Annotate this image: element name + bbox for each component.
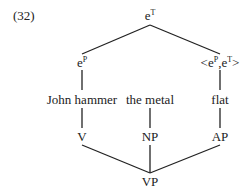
edge-V-VP: [82, 145, 150, 173]
tree-edges: [0, 0, 247, 192]
node-VP-root: VP: [142, 175, 159, 189]
example-number: (32): [13, 9, 35, 23]
node-AP: AP: [212, 130, 229, 144]
node-V: V: [77, 130, 86, 144]
edge-eT-eP: [82, 25, 150, 54]
edge-eT-func: [150, 25, 220, 54]
word-flat: flat: [211, 93, 228, 107]
node-eT-root: eT: [145, 9, 156, 23]
word-the-metal: the metal: [126, 93, 174, 107]
node-eP: eP: [77, 56, 87, 70]
edge-AP-VP: [150, 145, 220, 173]
word-john-hammer: John hammer: [47, 93, 117, 107]
node-NP: NP: [142, 130, 159, 144]
node-function-type: <eP,eT>: [201, 56, 240, 70]
